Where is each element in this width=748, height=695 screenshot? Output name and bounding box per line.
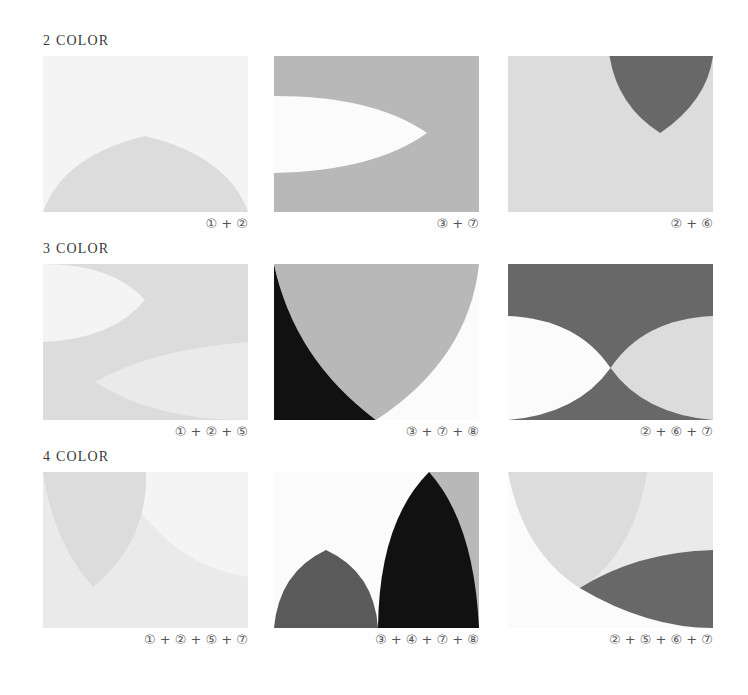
swatch-graphic	[43, 264, 248, 420]
swatch-panel-1-2-5-7	[43, 472, 248, 628]
panel-caption: ② + ⑤ + ⑥ + ⑦	[508, 632, 713, 647]
swatch-panel-3-7	[274, 56, 479, 212]
row-title-2-color: 2 COLOR	[43, 33, 109, 49]
swatch-panel-1-2	[43, 56, 248, 212]
panel-caption: ① + ②	[43, 216, 248, 231]
swatch-panel-3-7-8	[274, 264, 479, 420]
panel-caption: ③ + ⑦	[274, 216, 479, 231]
swatch-graphic	[508, 264, 713, 420]
swatch-graphic	[274, 264, 479, 420]
panel-caption: ① + ② + ⑤	[43, 424, 248, 439]
panel-caption: ③ + ④ + ⑦ + ⑧	[274, 632, 479, 647]
panel-caption: ① + ② + ⑤ + ⑦	[43, 632, 248, 647]
swatch-graphic	[508, 472, 713, 628]
panel-caption: ② + ⑥ + ⑦	[508, 424, 713, 439]
swatch-graphic	[43, 472, 248, 628]
swatch-panel-1-2-5	[43, 264, 248, 420]
swatch-graphic	[274, 56, 479, 212]
swatch-panel-2-6-7	[508, 264, 713, 420]
panel-caption: ② + ⑥	[508, 216, 713, 231]
swatch-graphic	[508, 56, 713, 212]
swatch-panel-2-5-6-7	[508, 472, 713, 628]
panel-caption: ③ + ⑦ + ⑧	[274, 424, 479, 439]
row-title-3-color: 3 COLOR	[43, 241, 109, 257]
swatch-graphic	[43, 56, 248, 212]
swatch-panel-3-4-7-8	[274, 472, 479, 628]
swatch-graphic	[274, 472, 479, 628]
swatch-panel-2-6	[508, 56, 713, 212]
row-title-4-color: 4 COLOR	[43, 449, 109, 465]
